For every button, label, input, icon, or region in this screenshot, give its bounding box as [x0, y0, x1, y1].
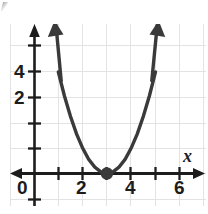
parabola-graph-figure: 2 4 0 2 4 6 x — [0, 0, 208, 214]
x-tick-label-2: 2 — [76, 178, 87, 197]
y-axis-arrow-icon — [29, 24, 40, 37]
x-tick-label-6: 6 — [174, 178, 185, 197]
x-tick-label-0: 0 — [17, 178, 28, 197]
parabola-right-branch — [107, 72, 156, 174]
parabola-right-arrow-icon — [150, 24, 166, 81]
vertex-point — [101, 167, 113, 179]
parabola-left-arrow-icon — [48, 24, 64, 81]
y-axis — [28, 24, 41, 206]
x-axis-variable-label: x — [183, 147, 192, 165]
x-tick-label-4: 4 — [125, 178, 136, 197]
y-tick-label-2: 2 — [14, 88, 25, 107]
scan-artifact — [0, 0, 208, 18]
y-tick-label-4: 4 — [14, 62, 25, 81]
